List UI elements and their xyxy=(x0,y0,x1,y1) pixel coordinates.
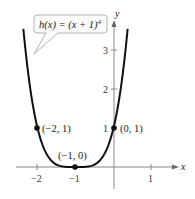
x-tick-label: −1 xyxy=(69,173,80,184)
x-tick-label: 1 xyxy=(148,173,153,184)
function-label: h(x) = (x + 1)4 xyxy=(39,18,101,31)
point-marker xyxy=(111,125,117,131)
y-axis-label: y xyxy=(114,8,120,19)
x-axis-arrow-icon xyxy=(172,165,179,170)
y-tick-label: 1 xyxy=(103,123,108,134)
y-axis-arrow-icon xyxy=(112,20,117,27)
labeled-points: (−2, 1) (−1, 0) (0, 1) xyxy=(34,123,143,170)
point-label: (−1, 0) xyxy=(58,150,87,162)
point-marker xyxy=(72,164,78,170)
x-axis: x xyxy=(16,161,186,172)
x-tick-label: −2 xyxy=(31,173,42,184)
y-tick-label: 3 xyxy=(103,45,108,56)
function-label-callout: h(x) = (x + 1)4 xyxy=(34,15,107,54)
function-graph: x y −2 −1 1 1 2 3 (−2, 1) (−1, 0) (0, 1) xyxy=(0,0,195,199)
point-marker xyxy=(34,125,40,131)
x-axis-label: x xyxy=(180,161,186,172)
point-label: (−2, 1) xyxy=(42,123,71,135)
y-tick-label: 2 xyxy=(103,84,108,95)
point-label: (0, 1) xyxy=(120,123,143,135)
